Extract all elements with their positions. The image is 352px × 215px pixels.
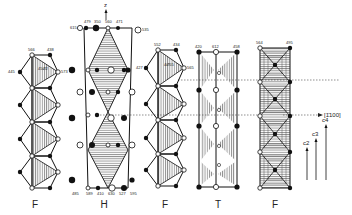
column-label-f2: F — [162, 199, 168, 210]
octahedron-unit — [20, 122, 58, 156]
octahedron-unit — [20, 88, 58, 122]
octahedron-unit — [146, 50, 184, 86]
atom-label: 434 — [173, 42, 180, 47]
octahedron-plan-units — [260, 48, 290, 188]
atom-label: 420 — [195, 44, 202, 49]
atom-label: 527 — [119, 191, 126, 196]
atom-label: 485 — [72, 191, 79, 196]
c4-arrow: c4 — [322, 117, 329, 180]
atom-label: 479 — [84, 19, 91, 24]
c3-label: c3 — [312, 131, 319, 137]
z-axis-label: z — [104, 2, 107, 8]
crystal-structure-figure: 566 438 445 573 45Ø2 F z — [0, 0, 352, 215]
bipyramid-unit — [88, 112, 128, 188]
c2-label: c2 — [303, 140, 310, 146]
column-label-t: T — [215, 199, 221, 210]
octahedron-unit — [20, 55, 58, 88]
atom-label: 589 — [86, 191, 93, 196]
column-t: 420 612 458 T — [195, 44, 240, 210]
atom-label: 560 — [105, 19, 112, 24]
atom-label: 495 — [286, 40, 293, 45]
c2-arrow: c2 — [303, 140, 310, 180]
atom-label: 45Ø2 — [38, 66, 49, 71]
atom-label: 573 — [61, 69, 68, 74]
octahedron-unit — [146, 154, 184, 186]
column-h: z — [69, 2, 150, 210]
octahedron-unit — [146, 120, 184, 154]
atom-label: 564 — [256, 40, 263, 45]
column-f3: 564 495 F — [256, 40, 293, 210]
z-axis-arrow: z — [104, 2, 108, 20]
atom-label: 471 — [116, 19, 123, 24]
atom-label: 566 — [28, 47, 35, 52]
atom-label: 615 — [70, 25, 77, 30]
column-f1: 566 438 445 573 45Ø2 F — [8, 47, 68, 210]
atom-label: 445 — [8, 69, 15, 74]
c4-label: c4 — [322, 117, 329, 123]
c3-arrow: c3 — [312, 131, 319, 180]
atom-label: 458 — [233, 44, 240, 49]
column-label-f3: F — [272, 199, 278, 210]
column-f2: 552 434 427 565 4Ø55 F — [136, 42, 194, 210]
atom-label: 552 — [154, 42, 161, 47]
atom-label: 427 — [136, 65, 143, 70]
atom-label: 612 — [212, 44, 219, 49]
atom-label: 4Ø55 — [164, 62, 175, 67]
atom-label: 410 — [97, 191, 104, 196]
atom-label: 438 — [47, 47, 54, 52]
column-label-h: H — [100, 199, 107, 210]
atom-label: 350 — [94, 19, 101, 24]
atom-label: 630 — [108, 191, 115, 196]
column-label-f1: F — [32, 199, 38, 210]
atom-label: 535 — [142, 27, 149, 32]
atom-label: 565 — [187, 65, 194, 70]
atom-label: 595 — [130, 191, 137, 196]
c-axis-arrows: c2 c3 c4 — [303, 117, 329, 180]
octahedron-unit — [20, 156, 58, 188]
